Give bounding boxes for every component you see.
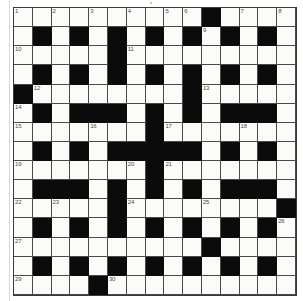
grid-cell[interactable]: [70, 46, 89, 65]
grid-cell[interactable]: [240, 238, 259, 257]
grid-cell[interactable]: [52, 104, 71, 123]
grid-cell[interactable]: [164, 65, 183, 84]
grid-cell[interactable]: [240, 276, 259, 295]
grid-cell[interactable]: [146, 85, 165, 104]
grid-cell[interactable]: [127, 123, 146, 142]
grid-cell[interactable]: [108, 85, 127, 104]
grid-cell[interactable]: [108, 8, 127, 27]
grid-cell[interactable]: [14, 27, 33, 46]
grid-cell[interactable]: [202, 218, 221, 237]
grid-cell[interactable]: [127, 257, 146, 276]
grid-cell[interactable]: [202, 46, 221, 65]
grid-cell[interactable]: [164, 257, 183, 276]
crossword-grid[interactable]: 1234567891011121314151617181920212223242…: [13, 7, 297, 296]
grid-cell[interactable]: [146, 276, 165, 295]
grid-cell[interactable]: [164, 180, 183, 199]
grid-cell[interactable]: [108, 161, 127, 180]
grid-cell[interactable]: [89, 180, 108, 199]
grid-cell[interactable]: [33, 46, 52, 65]
grid-cell[interactable]: 14: [14, 104, 33, 123]
grid-cell[interactable]: 30: [108, 276, 127, 295]
grid-cell[interactable]: [240, 46, 259, 65]
grid-cell[interactable]: [33, 161, 52, 180]
grid-cell[interactable]: [258, 8, 277, 27]
grid-cell[interactable]: [202, 180, 221, 199]
grid-cell[interactable]: [221, 199, 240, 218]
grid-cell[interactable]: [127, 27, 146, 46]
grid-cell[interactable]: [108, 123, 127, 142]
grid-cell[interactable]: [33, 8, 52, 27]
grid-cell[interactable]: [52, 161, 71, 180]
grid-cell[interactable]: [52, 276, 71, 295]
grid-cell[interactable]: [89, 238, 108, 257]
grid-cell[interactable]: [127, 218, 146, 237]
grid-cell[interactable]: 9: [202, 27, 221, 46]
grid-cell[interactable]: [89, 65, 108, 84]
grid-cell[interactable]: 5: [164, 8, 183, 27]
grid-cell[interactable]: [14, 257, 33, 276]
grid-cell[interactable]: [277, 161, 296, 180]
grid-cell[interactable]: [146, 46, 165, 65]
grid-cell[interactable]: [52, 238, 71, 257]
grid-cell[interactable]: [164, 276, 183, 295]
grid-cell[interactable]: 12: [33, 85, 52, 104]
grid-cell[interactable]: [277, 85, 296, 104]
grid-cell[interactable]: [277, 238, 296, 257]
grid-cell[interactable]: 3: [89, 8, 108, 27]
grid-cell[interactable]: [127, 65, 146, 84]
grid-cell[interactable]: [146, 199, 165, 218]
grid-cell[interactable]: [277, 123, 296, 142]
grid-cell[interactable]: [52, 123, 71, 142]
grid-cell[interactable]: [240, 85, 259, 104]
grid-cell[interactable]: [52, 65, 71, 84]
grid-cell[interactable]: [258, 46, 277, 65]
grid-cell[interactable]: [202, 123, 221, 142]
grid-cell[interactable]: [33, 123, 52, 142]
grid-cell[interactable]: [52, 142, 71, 161]
grid-cell[interactable]: 6: [183, 8, 202, 27]
grid-cell[interactable]: [89, 218, 108, 237]
grid-cell[interactable]: 26: [277, 218, 296, 237]
grid-cell[interactable]: [164, 238, 183, 257]
grid-cell[interactable]: [202, 65, 221, 84]
grid-cell[interactable]: 25: [202, 199, 221, 218]
grid-cell[interactable]: [277, 276, 296, 295]
grid-cell[interactable]: [202, 161, 221, 180]
grid-cell[interactable]: [221, 123, 240, 142]
grid-cell[interactable]: 21: [164, 161, 183, 180]
grid-cell[interactable]: [52, 46, 71, 65]
grid-cell[interactable]: [14, 180, 33, 199]
grid-cell[interactable]: [277, 104, 296, 123]
grid-cell[interactable]: [202, 104, 221, 123]
grid-cell[interactable]: [183, 123, 202, 142]
grid-cell[interactable]: [89, 27, 108, 46]
grid-cell[interactable]: [70, 238, 89, 257]
grid-cell[interactable]: [89, 199, 108, 218]
grid-cell[interactable]: [108, 238, 127, 257]
grid-cell[interactable]: [89, 85, 108, 104]
grid-cell[interactable]: [52, 218, 71, 237]
grid-cell[interactable]: [240, 142, 259, 161]
grid-cell[interactable]: [240, 161, 259, 180]
grid-cell[interactable]: [183, 276, 202, 295]
grid-cell[interactable]: [70, 276, 89, 295]
grid-cell[interactable]: [33, 199, 52, 218]
grid-cell[interactable]: [221, 8, 240, 27]
grid-cell[interactable]: 2: [52, 8, 71, 27]
grid-cell[interactable]: [277, 46, 296, 65]
grid-cell[interactable]: [164, 218, 183, 237]
grid-cell[interactable]: [221, 85, 240, 104]
grid-cell[interactable]: [70, 8, 89, 27]
grid-cell[interactable]: [14, 218, 33, 237]
grid-cell[interactable]: [52, 27, 71, 46]
grid-cell[interactable]: [277, 180, 296, 199]
grid-cell[interactable]: [164, 199, 183, 218]
grid-cell[interactable]: 11: [127, 46, 146, 65]
grid-cell[interactable]: [258, 85, 277, 104]
grid-cell[interactable]: [89, 257, 108, 276]
grid-cell[interactable]: [127, 276, 146, 295]
grid-cell[interactable]: [240, 199, 259, 218]
grid-cell[interactable]: [183, 161, 202, 180]
grid-cell[interactable]: 18: [240, 123, 259, 142]
grid-cell[interactable]: [221, 276, 240, 295]
